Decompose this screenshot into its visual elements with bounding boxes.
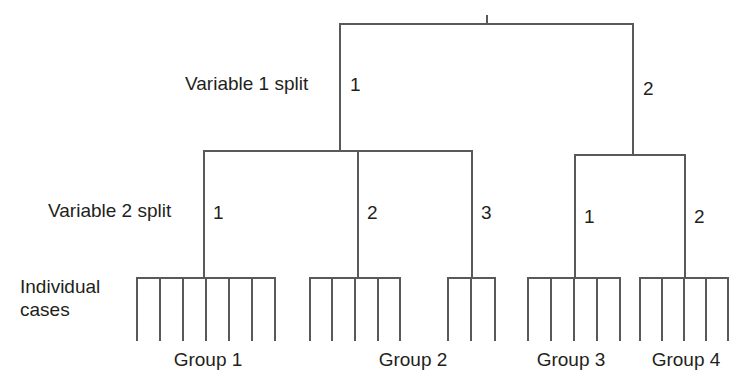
level1-branch-2-label: 2: [643, 79, 654, 98]
leaf-cluster-group-3: [528, 278, 620, 340]
group-label-4: Group 4: [641, 350, 731, 369]
group-label-1: Group 1: [163, 350, 253, 369]
level2-right-branch-2-label: 2: [694, 207, 705, 226]
level2-right-branch-1-label: 1: [584, 207, 595, 226]
row-label-variable-1-split: Variable 1 split: [185, 74, 308, 93]
row-label-individual-cases-line1: Individual: [20, 277, 100, 296]
level2-left-branch-2-label: 2: [367, 203, 378, 222]
tree-diagram-figure: Variable 1 split Variable 2 split Indivi…: [0, 0, 740, 388]
row-label-individual-cases-line2: cases: [20, 300, 70, 319]
level1-branch-1-label: 1: [350, 75, 361, 94]
group-label-3: Group 3: [526, 350, 616, 369]
row-label-variable-2-split: Variable 2 split: [48, 201, 171, 220]
leaf-cluster-group-2-left: [310, 278, 400, 340]
level2-left-branch-3-label: 3: [481, 203, 492, 222]
level2-left-branch-1-label: 1: [213, 203, 224, 222]
tree-structure-graphic: [0, 0, 740, 388]
leaf-cluster-group-1: [137, 278, 275, 340]
leaf-cluster-group-4: [640, 278, 728, 340]
group-label-2: Group 2: [368, 350, 458, 369]
leaf-cluster-group-2-right: [448, 278, 495, 340]
